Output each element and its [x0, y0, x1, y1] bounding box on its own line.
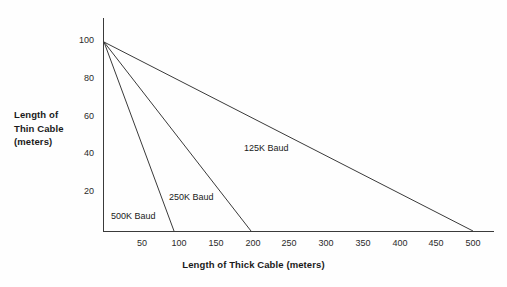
chart-container: Length of Thin Cable (meters) Length of … — [0, 0, 507, 287]
x-tick-label-400: 400 — [385, 238, 415, 248]
y-axis-title: Length of Thin Cable (meters) — [14, 108, 64, 149]
x-tick-label-450: 450 — [421, 238, 451, 248]
series-label-500k-baud: 500K Baud — [110, 211, 157, 221]
x-tick-label-100: 100 — [164, 238, 194, 248]
x-tick-label-250: 250 — [274, 238, 304, 248]
y-tick-label-60: 60 — [68, 111, 94, 121]
x-axis-title: Length of Thick Cable (meters) — [0, 259, 507, 270]
x-tick-label-300: 300 — [311, 238, 341, 248]
x-tick-label-150: 150 — [201, 238, 231, 248]
y-axis-title-line-2: Thin Cable — [14, 122, 64, 136]
y-axis-title-line-3: (meters) — [14, 135, 64, 149]
x-tick-label-50: 50 — [127, 238, 157, 248]
y-axis-title-line-1: Length of — [14, 108, 64, 122]
series-line-500k-baud — [104, 42, 174, 231]
x-tick-label-500: 500 — [458, 238, 488, 248]
series-label-250k-baud: 250K Baud — [168, 192, 215, 202]
y-tick-label-40: 40 — [68, 148, 94, 158]
series-line-250k-baud — [104, 42, 251, 231]
x-tick-label-200: 200 — [238, 238, 268, 248]
x-tick-label-350: 350 — [348, 238, 378, 248]
y-tick-label-100: 100 — [68, 35, 94, 45]
series-line-125k-baud — [104, 42, 473, 231]
series-label-125k-baud: 125K Baud — [243, 143, 290, 153]
y-tick-label-20: 20 — [68, 186, 94, 196]
y-tick-label-80: 80 — [68, 73, 94, 83]
